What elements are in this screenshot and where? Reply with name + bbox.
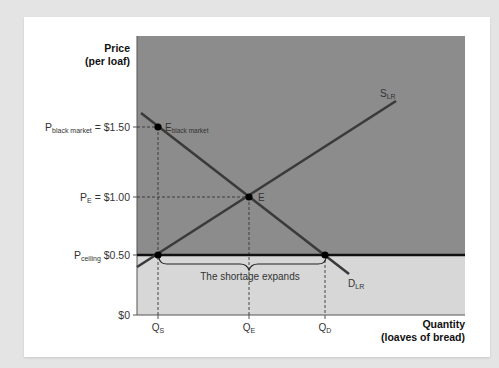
x-axis-title: Quantity <box>422 318 465 330</box>
y-tick-0: $0 <box>118 309 130 321</box>
y-axis-subtitle: (per loaf) <box>85 55 130 67</box>
quantity-supplied-point <box>154 251 161 258</box>
quantity-demanded-point <box>321 251 328 258</box>
price-ceiling-chart: Price (per loaf) Quantity (loaves of bre… <box>0 0 499 368</box>
x-axis-subtitle: (loaves of bread) <box>381 331 465 343</box>
region-above-ceiling <box>137 36 465 255</box>
equilibrium-point <box>245 193 252 200</box>
equilibrium-label: E <box>258 192 265 203</box>
shortage-annotation: The shortage expands <box>200 271 300 282</box>
x-tick-qd: QD <box>319 322 332 334</box>
y-tick-equilibrium: PE = $1.00 <box>80 191 130 204</box>
x-tick-qs: QS <box>152 322 165 334</box>
black-market-point <box>154 123 161 130</box>
y-tick-black-market: Pblack market = $1.50 <box>45 121 130 134</box>
y-axis-title: Price <box>104 42 130 54</box>
x-tick-qe: QE <box>243 322 256 334</box>
y-tick-ceiling: Pceiling $0.50 <box>74 249 130 263</box>
